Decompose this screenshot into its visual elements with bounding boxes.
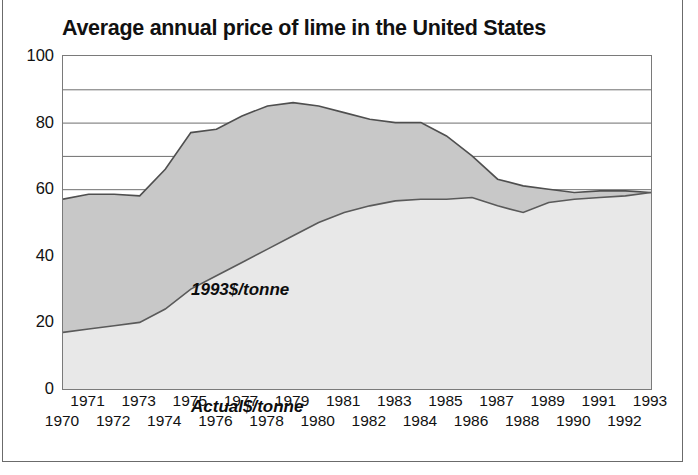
x-tick-label: 1982 xyxy=(352,412,386,430)
x-tick-label: 1988 xyxy=(505,412,539,430)
chart-title: Average annual price of lime in the Unit… xyxy=(62,16,662,41)
x-axis-even-years: 1970197219741976197819801982198419861988… xyxy=(62,412,650,432)
x-tick-label: 1989 xyxy=(530,392,564,410)
y-tick-label: 0 xyxy=(8,379,54,398)
x-tick-label: 1992 xyxy=(607,412,641,430)
x-tick-label: 1990 xyxy=(556,412,590,430)
x-tick-label: 1984 xyxy=(403,412,437,430)
x-tick-label: 1978 xyxy=(249,412,283,430)
y-tick-label: 100 xyxy=(8,46,54,65)
x-tick-label: 1981 xyxy=(326,392,360,410)
x-tick-label: 1991 xyxy=(582,392,616,410)
chart-figure: Average annual price of lime in the Unit… xyxy=(0,0,698,475)
x-tick-label: 1972 xyxy=(96,412,130,430)
y-tick-label: 60 xyxy=(8,179,54,198)
x-tick-label: 1973 xyxy=(121,392,155,410)
y-tick-label: 20 xyxy=(8,312,54,331)
x-tick-label: 1971 xyxy=(70,392,104,410)
x-tick-label: 1970 xyxy=(45,412,79,430)
x-tick-label: 1985 xyxy=(428,392,462,410)
x-tick-label: 1986 xyxy=(454,412,488,430)
x-tick-label: 1974 xyxy=(147,412,181,430)
series-layer xyxy=(63,56,651,389)
y-tick-label: 80 xyxy=(8,112,54,131)
x-tick-label: 1977 xyxy=(224,392,258,410)
x-tick-label: 1987 xyxy=(479,392,513,410)
x-tick-label: 1993 xyxy=(633,392,667,410)
x-tick-label: 1979 xyxy=(275,392,309,410)
x-tick-label: 1980 xyxy=(300,412,334,430)
x-tick-label: 1975 xyxy=(173,392,207,410)
x-tick-label: 1983 xyxy=(377,392,411,410)
y-axis: 020406080100 xyxy=(0,55,54,388)
y-tick-label: 40 xyxy=(8,245,54,264)
plot-area: 1993$/tonne Actual$/tonne xyxy=(62,55,652,390)
x-tick-label: 1976 xyxy=(198,412,232,430)
x-axis-odd-years: 1971197319751977197919811983198519871989… xyxy=(62,392,650,412)
series-label-1993-dollars: 1993$/tonne xyxy=(191,280,289,300)
